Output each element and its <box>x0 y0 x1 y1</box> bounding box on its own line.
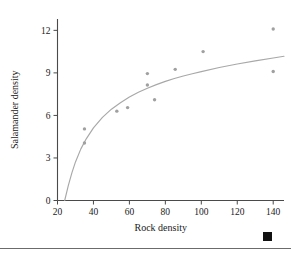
y-tick-label: 12 <box>41 26 51 36</box>
x-tick-label: 100 <box>194 207 209 217</box>
x-tick-label: 60 <box>125 207 135 217</box>
scatter-plot: 03691220406080100120140Rock densitySalam… <box>0 0 291 255</box>
x-tick-label: 140 <box>266 207 281 217</box>
y-tick-label: 6 <box>46 111 51 121</box>
data-point <box>174 68 177 71</box>
data-point <box>126 106 129 109</box>
data-point <box>146 72 149 75</box>
y-axis-title: Salamander density <box>9 70 20 149</box>
x-tick-label: 80 <box>161 207 171 217</box>
x-axis-title: Rock density <box>135 222 188 233</box>
data-point <box>153 98 156 101</box>
black-square-marker <box>263 232 272 241</box>
figure-container: 03691220406080100120140Rock densitySalam… <box>0 0 291 255</box>
y-tick-label: 3 <box>46 153 51 163</box>
data-point <box>201 50 204 53</box>
data-point <box>272 70 275 73</box>
data-point <box>115 109 118 112</box>
data-point <box>272 27 275 30</box>
x-tick-label: 20 <box>53 207 63 217</box>
y-tick-label: 0 <box>46 196 51 206</box>
fitted-curve <box>65 56 284 200</box>
bottom-divider-rule <box>0 248 291 249</box>
data-point <box>83 127 86 130</box>
data-point <box>83 141 86 144</box>
y-tick-label: 9 <box>46 68 51 78</box>
x-tick-label: 40 <box>89 207 99 217</box>
data-point <box>146 83 149 86</box>
x-tick-label: 120 <box>230 207 245 217</box>
